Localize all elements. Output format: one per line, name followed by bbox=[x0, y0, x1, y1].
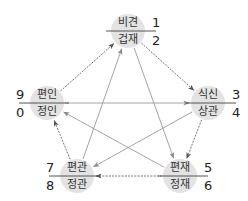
node-lower-label: 겁재 bbox=[118, 33, 138, 46]
node-upper-label: 편재 bbox=[170, 161, 190, 174]
arrow-bottom-right-to-left bbox=[64, 112, 165, 167]
node-number-upper: 5 bbox=[204, 160, 212, 175]
five-elements-diagram: 비견겁재12식신상관34편재정재56편관정관78편인정인90 bbox=[0, 0, 248, 201]
arrow-left-to-top bbox=[61, 44, 114, 91]
node-number-upper: 7 bbox=[46, 160, 54, 175]
node-number-lower: 0 bbox=[16, 105, 24, 120]
node-lower-label: 정인 bbox=[37, 105, 57, 118]
node-upper-label: 편인 bbox=[37, 88, 57, 101]
node-number-upper: 9 bbox=[16, 87, 24, 102]
nodes-layer: 비견겁재12식신상관34편재정재56편관정관78편인정인90 bbox=[16, 14, 240, 193]
edges-layer bbox=[54, 43, 201, 176]
node-lower-label: 정재 bbox=[170, 178, 190, 191]
node-lower-label: 상관 bbox=[198, 105, 218, 118]
node-top: 비견겁재12 bbox=[106, 14, 160, 48]
node-number-lower: 6 bbox=[204, 178, 212, 193]
node-upper-label: 편관 bbox=[67, 161, 87, 174]
node-lower-label: 정관 bbox=[67, 178, 87, 191]
node-right: 식신상관34 bbox=[186, 86, 240, 120]
node-number-lower: 8 bbox=[46, 178, 54, 193]
arrow-right-to-bottom-left bbox=[94, 112, 193, 167]
node-bottom-right: 편재정재56 bbox=[158, 159, 212, 193]
node-upper-label: 비견 bbox=[118, 16, 138, 29]
node-upper-label: 식신 bbox=[198, 88, 218, 101]
arrow-bottom-left-to-top bbox=[83, 49, 122, 159]
node-number-upper: 3 bbox=[232, 87, 240, 102]
node-number-lower: 4 bbox=[232, 105, 240, 120]
arrow-bottom-left-to-left bbox=[54, 121, 70, 160]
node-number-lower: 2 bbox=[152, 33, 160, 48]
node-bottom-left: 편관정관78 bbox=[46, 159, 99, 193]
arrow-top-to-right bbox=[141, 43, 194, 90]
node-number-upper: 1 bbox=[152, 15, 160, 30]
arrow-right-to-bottom-right bbox=[187, 120, 202, 159]
